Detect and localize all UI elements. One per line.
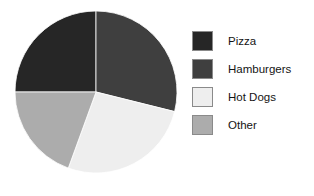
legend-swatch-other	[192, 115, 213, 135]
legend-label-hot-dogs: Hot Dogs	[228, 91, 276, 104]
legend-item-other[interactable]: Other	[192, 111, 312, 139]
pie-plot-area	[0, 0, 190, 196]
legend-item-pizza[interactable]: Pizza	[192, 27, 312, 55]
pie-slices	[15, 11, 177, 173]
pie-slice-pizza[interactable]	[15, 11, 96, 92]
legend-swatch-pizza	[192, 31, 213, 51]
legend-item-hot-dogs[interactable]: Hot Dogs	[192, 83, 312, 111]
pie-chart-figure: Pizza Hamburgers Hot Dogs Other	[0, 0, 314, 196]
legend-label-hamburgers: Hamburgers	[228, 63, 291, 76]
legend: Pizza Hamburgers Hot Dogs Other	[192, 27, 312, 139]
pie-svg	[0, 0, 190, 196]
legend-item-hamburgers[interactable]: Hamburgers	[192, 55, 312, 83]
legend-swatch-hot-dogs	[192, 87, 213, 107]
legend-swatch-hamburgers	[192, 59, 213, 79]
legend-label-pizza: Pizza	[228, 35, 256, 48]
legend-label-other: Other	[228, 119, 257, 132]
